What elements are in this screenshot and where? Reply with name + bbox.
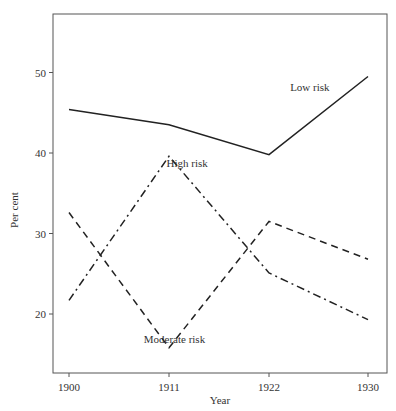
annotation-high-risk: High risk: [167, 157, 209, 169]
y-tick-label: 20: [35, 308, 47, 320]
x-tick-label: 1911: [158, 381, 180, 393]
annotation-low-risk: Low risk: [290, 81, 330, 93]
y-axis-label: Per cent: [8, 192, 20, 228]
x-tick-label: 1900: [58, 381, 81, 393]
line-chart: 203040501900191119221930YearPer centLow …: [0, 0, 396, 411]
x-tick-label: 1922: [258, 381, 280, 393]
x-axis-label: Year: [210, 394, 231, 406]
x-tick-label: 1930: [357, 381, 380, 393]
annotation-moderate-risk: Moderate risk: [144, 333, 206, 345]
y-tick-label: 50: [35, 67, 47, 79]
y-tick-label: 40: [35, 147, 47, 159]
y-tick-label: 30: [35, 228, 47, 240]
series-high-risk: [69, 156, 368, 319]
series-moderate-risk: [69, 213, 368, 348]
plot-frame: [53, 14, 387, 373]
